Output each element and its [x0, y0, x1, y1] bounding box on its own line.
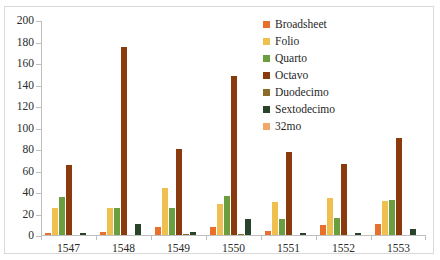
bar	[114, 208, 120, 235]
y-tick-mark	[36, 64, 41, 65]
bar	[341, 164, 347, 235]
x-tick-label: 1551	[277, 243, 300, 255]
legend-swatch-icon	[263, 21, 270, 28]
chart-frame: 020406080100120140160180200 154715481549…	[4, 6, 434, 254]
legend-item[interactable]: Octavo	[263, 68, 335, 83]
legend-item[interactable]: Folio	[263, 34, 335, 49]
bar-group	[152, 21, 207, 235]
x-tick-label: 1550	[222, 243, 245, 255]
bar	[169, 208, 175, 235]
bar	[272, 202, 278, 235]
legend-swatch-icon	[263, 38, 270, 45]
legend-item[interactable]: Duodecimo	[263, 85, 335, 100]
y-tick-mark	[36, 129, 41, 130]
bar	[162, 188, 168, 235]
x-tick-label: 1553	[387, 243, 410, 255]
legend-item[interactable]: Broadsheet	[263, 17, 335, 32]
legend-item[interactable]: Quarto	[263, 51, 335, 66]
legend-item[interactable]: Sextodecimo	[263, 102, 335, 117]
bar	[52, 208, 58, 235]
bar	[396, 138, 402, 235]
y-tick-mark	[36, 107, 41, 108]
bar	[155, 227, 161, 235]
bar	[210, 227, 216, 235]
x-tick-mark	[261, 236, 262, 240]
bar	[176, 149, 182, 235]
legend-swatch-icon	[263, 72, 270, 79]
bar	[135, 224, 141, 235]
legend-swatch-icon	[263, 55, 270, 62]
legend-swatch-icon	[263, 123, 270, 130]
legend-item-label: Sextodecimo	[275, 104, 335, 116]
bar	[238, 234, 244, 235]
y-tick-mark	[36, 43, 41, 44]
bar	[231, 76, 237, 235]
bar-group	[207, 21, 262, 235]
y-tick-mark	[36, 172, 41, 173]
y-tick-mark	[36, 86, 41, 87]
bar-group	[42, 21, 97, 235]
legend-item-label: 32mo	[275, 121, 301, 133]
y-tick-label: 200	[17, 15, 34, 27]
bar	[410, 229, 416, 235]
x-tick-mark	[96, 236, 97, 240]
bar	[265, 231, 271, 235]
x-tick-label: 1549	[167, 243, 190, 255]
y-tick-label: 160	[17, 58, 34, 70]
bar	[224, 196, 230, 235]
bar	[190, 232, 196, 235]
bar	[300, 233, 306, 235]
y-tick-label: 140	[17, 80, 34, 92]
y-tick-label: 20	[23, 209, 35, 221]
y-tick-label: 60	[23, 166, 35, 178]
bar	[382, 201, 388, 235]
legend-item-label: Octavo	[275, 70, 308, 82]
x-tick-mark	[206, 236, 207, 240]
y-tick-mark	[36, 150, 41, 151]
y-tick-mark	[36, 193, 41, 194]
bar	[100, 232, 106, 235]
bar	[59, 197, 65, 235]
bar	[66, 165, 72, 235]
x-tick-mark	[425, 236, 426, 240]
x-tick-mark	[371, 236, 372, 240]
legend-item-label: Broadsheet	[275, 19, 327, 31]
chart-legend: BroadsheetFolioQuartoOctavoDuodecimoSext…	[263, 17, 335, 134]
bar-group	[371, 21, 426, 235]
x-tick-mark	[41, 236, 42, 240]
legend-item-label: Quarto	[275, 53, 307, 65]
y-tick-label: 120	[17, 101, 34, 113]
bar	[320, 225, 326, 235]
bar	[107, 208, 113, 235]
y-tick-label: 80	[23, 144, 35, 156]
bar	[45, 233, 51, 235]
y-tick-label: 100	[17, 123, 34, 135]
bar	[375, 224, 381, 235]
y-tick-label: 180	[17, 37, 34, 49]
bar	[286, 152, 292, 235]
legend-item-label: Duodecimo	[275, 87, 329, 99]
legend-item-label: Folio	[275, 36, 299, 48]
bar	[183, 234, 189, 235]
bar	[327, 198, 333, 235]
legend-item[interactable]: 32mo	[263, 119, 335, 134]
bar	[217, 204, 223, 235]
y-tick-mark	[36, 215, 41, 216]
legend-swatch-icon	[263, 106, 270, 113]
y-tick-mark	[36, 21, 41, 22]
x-tick-mark	[151, 236, 152, 240]
bar	[121, 47, 127, 235]
y-tick-label: 40	[23, 187, 35, 199]
legend-swatch-icon	[263, 89, 270, 96]
bar	[80, 233, 86, 235]
bar	[334, 218, 340, 235]
bar	[389, 200, 395, 235]
bar	[355, 233, 361, 235]
x-tick-label: 1548	[112, 243, 135, 255]
x-tick-mark	[316, 236, 317, 240]
x-tick-label: 1552	[332, 243, 355, 255]
y-tick-label: 0	[28, 230, 34, 242]
bar-group	[97, 21, 152, 235]
bar	[245, 219, 251, 235]
x-axis-line	[41, 235, 426, 236]
